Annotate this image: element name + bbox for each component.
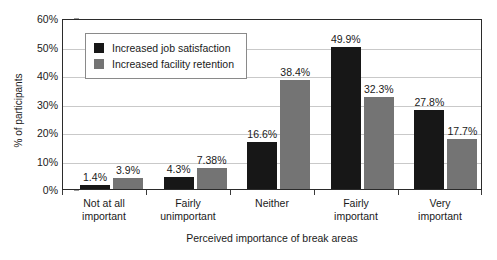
bar-chart: % of participants 60%50%40%30%20%10%0% 1… <box>0 0 497 260</box>
x-category-label: Not at allimportant <box>62 197 146 223</box>
y-tick-label: 10% <box>20 156 58 167</box>
x-axis-ticks <box>62 190 482 196</box>
bar-group: 27.8%17.7% <box>397 20 481 189</box>
x-axis-labels: Not at allimportantFairlyunimportantNeit… <box>62 197 482 223</box>
x-tick-mark <box>398 190 399 195</box>
bar[interactable]: 1.4% <box>80 185 110 189</box>
x-category-label: Neither <box>230 197 314 223</box>
bar-value-label: 1.4% <box>83 172 107 183</box>
y-tick-label: 30% <box>20 99 58 110</box>
bar-value-label: 49.9% <box>331 34 361 45</box>
x-category-label-line: Not at all <box>62 197 146 210</box>
bar-value-label: 7.38% <box>197 155 227 166</box>
x-category-label-line: Neither <box>230 197 314 210</box>
bar[interactable]: 27.8% <box>414 110 444 189</box>
bar[interactable]: 7.38% <box>197 168 227 189</box>
x-category-label-line: Very <box>398 197 482 210</box>
legend-swatch-icon-series-1 <box>94 59 104 69</box>
legend-item-series-0: Increased job satisfaction <box>94 40 234 56</box>
bar[interactable]: 49.9% <box>331 47 361 189</box>
y-tick-label: 0% <box>20 185 58 196</box>
x-axis-title: Perceived importance of break areas <box>62 232 482 244</box>
legend-swatch-icon-series-0 <box>94 43 104 53</box>
x-category-label-line: Fairly <box>146 197 230 210</box>
bar-value-label: 38.4% <box>280 67 310 78</box>
plot-area: 1.4%3.9%4.3%7.38%16.6%38.4%49.9%32.3%27.… <box>62 19 482 190</box>
bar-group: 49.9%32.3% <box>314 20 398 189</box>
bar[interactable]: 3.9% <box>113 178 143 189</box>
x-category-label-line: unimportant <box>146 210 230 223</box>
bar[interactable]: 4.3% <box>164 177 194 189</box>
bar-value-label: 4.3% <box>167 164 191 175</box>
x-tick-mark <box>230 190 231 195</box>
x-tick-mark <box>62 190 63 195</box>
bar-value-label: 16.6% <box>247 129 277 140</box>
bar[interactable]: 17.7% <box>447 139 477 189</box>
x-category-label: Fairlyunimportant <box>146 197 230 223</box>
bar-value-label: 3.9% <box>116 165 140 176</box>
y-tick-label: 20% <box>20 128 58 139</box>
y-tick-label: 50% <box>20 42 58 53</box>
legend-label-series-1: Increased facility retention <box>112 59 234 70</box>
legend-item-series-1: Increased facility retention <box>94 56 234 72</box>
bar-value-label: 27.8% <box>414 97 444 108</box>
y-tick-label: 60% <box>20 14 58 25</box>
x-category-label-line: important <box>314 210 398 223</box>
x-category-label-line: important <box>62 210 146 223</box>
bar-value-label: 17.7% <box>447 126 477 137</box>
x-category-label: Fairlyimportant <box>314 197 398 223</box>
bar[interactable]: 16.6% <box>247 142 277 189</box>
x-category-label-line: important <box>398 210 482 223</box>
bar-value-label: 32.3% <box>364 84 394 95</box>
legend-label-series-0: Increased job satisfaction <box>112 43 230 54</box>
bar[interactable]: 38.4% <box>280 80 310 189</box>
x-category-label-line: Fairly <box>314 197 398 210</box>
x-category-label: Veryimportant <box>398 197 482 223</box>
y-tick-label: 40% <box>20 71 58 82</box>
bar[interactable]: 32.3% <box>364 97 394 189</box>
x-tick-mark <box>146 190 147 195</box>
x-tick-mark <box>481 190 482 195</box>
x-tick-mark <box>314 190 315 195</box>
y-axis-ticks: 60%50%40%30%20%10%0% <box>20 19 58 190</box>
legend: Increased job satisfaction Increased fac… <box>85 33 247 79</box>
